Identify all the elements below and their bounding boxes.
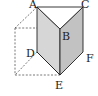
label-F: F — [86, 52, 94, 65]
label-C: C — [81, 0, 89, 11]
label-A: A — [28, 0, 38, 11]
label-E: E — [55, 79, 63, 92]
label-B: B — [62, 30, 70, 43]
label-D: D — [26, 47, 35, 60]
prism-diagram: A C B D F E — [0, 0, 98, 96]
